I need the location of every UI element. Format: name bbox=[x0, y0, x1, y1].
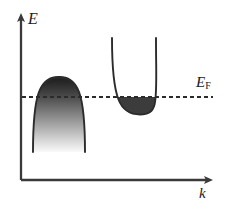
band-diagram-canvas bbox=[0, 0, 226, 211]
energy-axis-label: E bbox=[28, 11, 38, 27]
conduction-band-fill bbox=[112, 38, 156, 115]
wavevector-axis bbox=[21, 176, 213, 184]
valence-band-group bbox=[30, 74, 88, 154]
wavevector-axis-label: k bbox=[199, 186, 206, 201]
fermi-label-subscript: F bbox=[205, 80, 211, 91]
fermi-label-symbol: E bbox=[196, 74, 205, 90]
valence-band-fill bbox=[30, 74, 88, 154]
band-diagram-figure: E k EF bbox=[0, 0, 226, 211]
fermi-level-label: EF bbox=[196, 75, 211, 91]
conduction-band-group bbox=[112, 38, 156, 115]
